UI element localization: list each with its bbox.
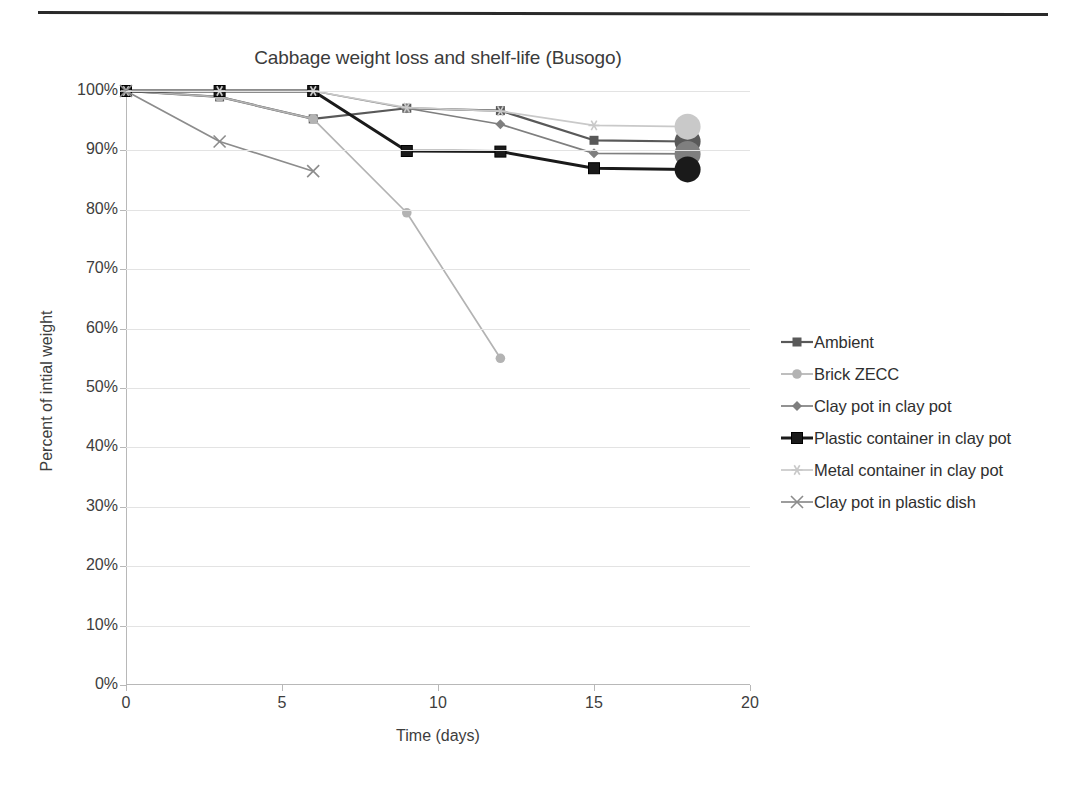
x-tick-mark [282,685,283,691]
data-point-marker-star [589,121,600,131]
legend-item-clay-pot-in-plastic-dish[interactable]: Clay pot in plastic dish [780,486,1040,518]
legend-item-ambient[interactable]: Ambient [780,326,1040,358]
gridline-horizontal [126,150,750,151]
y-tick-mark [120,91,126,92]
y-tick-mark [120,388,126,389]
y-axis-tick-labels: 0%10%20%30%40%50%60%70%80%90%100% [56,91,118,685]
x-tick-mark [750,685,751,691]
series-metal-container-in-clay-pot [121,86,701,139]
data-point-marker-square [793,338,802,347]
legend-item-plastic-container-in-clay-pot[interactable]: Plastic container in clay pot [780,422,1040,454]
y-tick-label: 60% [86,319,118,337]
y-tick-mark [120,210,126,211]
legend-item-label: Clay pot in plastic dish [814,493,976,512]
data-point-marker-star [792,465,803,475]
series-plastic-container-in-clay-pot [121,86,701,183]
legend-item-label: Metal container in clay pot [814,461,1003,480]
legend-marker-circle-icon [780,364,814,384]
y-tick-label: 40% [86,437,118,455]
gridline-horizontal [126,91,750,92]
y-tick-label: 30% [86,497,118,515]
gridline-horizontal [126,566,750,567]
legend-item-label: Plastic container in clay pot [814,429,1011,448]
gridline-horizontal [126,329,750,330]
series-brick-zecc [121,86,505,363]
data-point-marker-circle [792,369,802,379]
legend-marker-star-icon [780,460,814,480]
data-point-marker-square-bold [792,433,803,444]
data-point-marker-diamond [495,119,505,129]
series-endpoint-marker [675,156,701,182]
gridline-horizontal [126,269,750,270]
data-point-marker-square-bold [495,146,506,157]
gridline-horizontal [126,447,750,448]
x-tick-label: 5 [278,694,287,712]
x-tick-mark [126,685,127,691]
data-point-marker-x [214,135,226,147]
gridline-horizontal [126,507,750,508]
x-tick-label: 20 [741,694,759,712]
y-tick-mark [120,566,126,567]
gridline-horizontal [126,388,750,389]
y-tick-label: 90% [86,140,118,158]
x-tick-mark [594,685,595,691]
data-point-marker-circle [308,114,318,124]
chart-title: Cabbage weight loss and shelf-life (Buso… [126,47,750,69]
chart-legend: AmbientBrick ZECCClay pot in clay potPla… [780,326,1040,518]
y-axis-title: Percent of intial weight [38,261,56,521]
y-tick-label: 20% [86,556,118,574]
data-point-marker-square [590,136,599,145]
legend-item-label: Clay pot in clay pot [814,397,951,416]
gridline-horizontal [126,626,750,627]
data-point-marker-x [307,165,319,177]
legend-item-metal-container-in-clay-pot[interactable]: Metal container in clay pot [780,454,1040,486]
x-tick-mark [438,685,439,691]
series-endpoint-marker [675,114,701,140]
y-tick-mark [120,507,126,508]
x-axis-title: Time (days) [126,727,750,745]
plot-area [126,91,750,685]
y-tick-mark [120,626,126,627]
data-point-marker-square-bold [589,163,600,174]
y-tick-label: 70% [86,259,118,277]
y-tick-label: 100% [77,81,118,99]
y-tick-mark [120,447,126,448]
y-tick-mark [120,269,126,270]
x-tick-label: 0 [122,694,131,712]
legend-marker-diamond-icon [780,396,814,416]
y-tick-label: 10% [86,616,118,634]
y-tick-mark [120,329,126,330]
legend-item-brick-zecc[interactable]: Brick ZECC [780,358,1040,390]
y-tick-mark [120,150,126,151]
y-tick-label: 50% [86,378,118,396]
x-axis-tick-labels: 05101520 [126,694,750,718]
legend-item-label: Brick ZECC [814,365,899,384]
y-tick-label: 0% [95,675,118,693]
legend-item-label: Ambient [814,333,874,352]
legend-marker-square-bold-icon [780,428,814,448]
data-point-marker-circle [496,354,506,364]
chart-figure: Cabbage weight loss and shelf-life (Buso… [0,0,1084,793]
legend-item-clay-pot-in-clay-pot[interactable]: Clay pot in clay pot [780,390,1040,422]
gridline-horizontal [126,210,750,211]
x-tick-label: 15 [585,694,603,712]
data-point-marker-diamond [792,401,802,411]
legend-marker-x-icon [780,492,814,512]
x-tick-label: 10 [429,694,447,712]
y-tick-label: 80% [86,200,118,218]
legend-marker-square-icon [780,332,814,352]
